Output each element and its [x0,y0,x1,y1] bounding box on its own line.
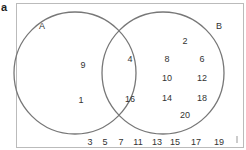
element-b-only: 20 [180,110,190,120]
element-b-only: 8 [164,54,169,64]
set-a-circle [14,12,136,134]
element-outside: 19 [214,137,224,147]
element-outside: 3 [87,137,92,147]
element-b-only: 10 [162,73,172,83]
set-b-label: B [216,21,222,31]
set-a-label: A [39,21,45,31]
element-intersection: 4 [127,54,132,64]
element-a-only: 9 [80,60,85,70]
element-a-only: 1 [78,95,83,105]
element-b-only: 12 [197,73,207,83]
element-outside: 11 [133,137,142,147]
element-outside: 15 [170,137,180,147]
element-outside: 7 [118,137,123,147]
universal-set-box [17,4,244,148]
element-intersection: 16 [125,94,135,104]
watermark-mark [236,136,238,143]
element-outside: 13 [152,137,162,147]
element-outside: 5 [102,137,107,147]
element-b-only: 6 [199,54,204,64]
venn-diagram: A B 9 1 4 16 2 8 6 10 12 14 18 20 3 5 7 … [0,0,246,150]
element-b-only: 2 [182,36,187,46]
element-outside: 17 [191,137,201,147]
element-b-only: 14 [162,93,172,103]
element-b-only: 18 [197,93,207,103]
